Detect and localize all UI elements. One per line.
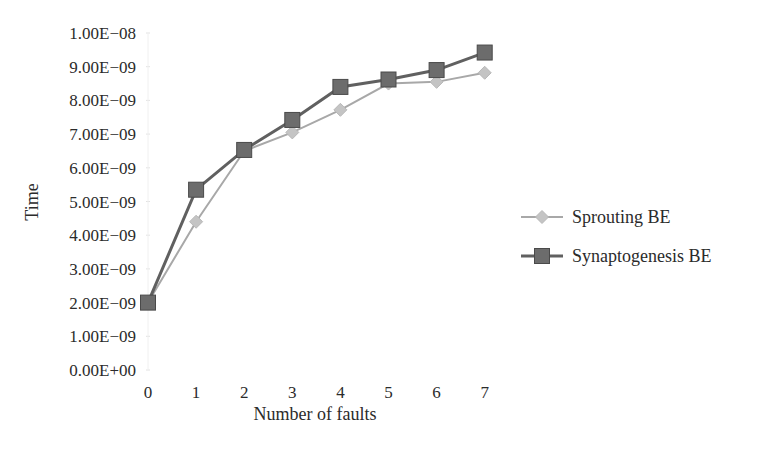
y-tick-label: 6.00E−09 (69, 159, 136, 178)
legend-item: Synaptogenesis BE (521, 246, 712, 266)
square-marker (429, 63, 444, 78)
plot-area (141, 45, 493, 310)
square-marker (477, 45, 492, 60)
y-tick-label: 2.00E−09 (69, 294, 136, 313)
x-tick-label: 4 (336, 383, 345, 402)
y-tick-label: 9.00E−09 (69, 58, 136, 77)
legend-label: Synaptogenesis BE (572, 246, 712, 266)
x-tick-label: 7 (480, 383, 489, 402)
y-tick-label: 4.00E−09 (69, 226, 136, 245)
legend-square-icon (535, 249, 550, 264)
diamond-marker (478, 66, 491, 79)
x-tick-label: 3 (288, 383, 297, 402)
square-marker (141, 295, 156, 310)
y-tick-label: 5.00E−09 (69, 193, 136, 212)
x-tick-label: 5 (384, 383, 393, 402)
series-line (148, 53, 485, 303)
diamond-marker (190, 215, 203, 228)
line-chart: 0.00E+001.00E−092.00E−093.00E−094.00E−09… (0, 0, 759, 457)
y-axis-title: Time (22, 183, 42, 220)
legend-label: Sprouting BE (572, 207, 671, 227)
y-tick-label: 0.00E+00 (69, 361, 136, 380)
y-tick-label: 3.00E−09 (69, 260, 136, 279)
square-marker (285, 112, 300, 127)
y-tick-label: 1.00E−08 (69, 24, 136, 43)
y-axis-ticks: 0.00E+001.00E−092.00E−093.00E−094.00E−09… (69, 24, 150, 380)
y-tick-label: 7.00E−09 (69, 125, 136, 144)
diamond-marker (334, 103, 347, 116)
legend: Sprouting BESynaptogenesis BE (521, 207, 712, 266)
y-tick-label: 8.00E−09 (69, 91, 136, 110)
x-tick-label: 2 (240, 383, 249, 402)
square-marker (189, 182, 204, 197)
legend-item: Sprouting BE (521, 207, 671, 227)
x-tick-label: 0 (144, 383, 153, 402)
legend-diamond-icon (536, 211, 549, 224)
square-marker (237, 142, 252, 157)
square-marker (333, 79, 348, 94)
x-axis-ticks: 01234567 (144, 383, 490, 402)
x-tick-label: 1 (192, 383, 201, 402)
x-tick-label: 6 (432, 383, 441, 402)
x-axis-title: Number of faults (254, 404, 377, 424)
y-tick-label: 1.00E−09 (69, 327, 136, 346)
square-marker (381, 72, 396, 87)
